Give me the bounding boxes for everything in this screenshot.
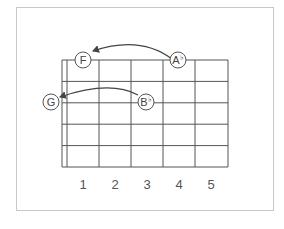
fret-labels: 1 2 3 4 5 — [79, 177, 214, 192]
svg-text:♭: ♭ — [180, 53, 184, 62]
svg-text:G: G — [47, 96, 56, 108]
note-a-flat: A ♭ — [170, 52, 186, 68]
fretboard-grid — [62, 60, 228, 167]
fretboard-diagram: F A ♭ G B ♭ 1 2 3 4 5 — [0, 0, 284, 229]
fret-label: 3 — [143, 177, 150, 192]
note-g: G — [43, 94, 59, 110]
fret-label: 4 — [175, 177, 182, 192]
note-f: F — [75, 52, 91, 68]
note-b-flat: B ♭ — [138, 94, 154, 110]
fret-label: 5 — [207, 177, 214, 192]
svg-text:F: F — [80, 54, 87, 66]
arrow-a-flat-to-f — [93, 45, 172, 59]
fret-label: 2 — [111, 177, 118, 192]
svg-text:♭: ♭ — [148, 95, 152, 104]
svg-text:B: B — [140, 96, 147, 108]
fret-label: 1 — [79, 177, 86, 192]
